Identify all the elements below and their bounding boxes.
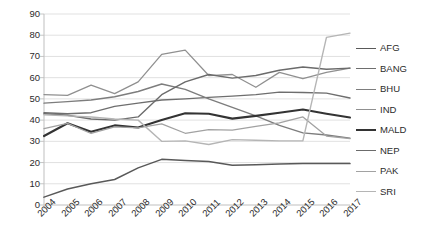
- legend-label: BHU: [380, 84, 400, 94]
- y-tick-label: 90: [2, 9, 40, 19]
- y-tick-label: 30: [2, 136, 40, 146]
- legend-line-swatch: [356, 48, 376, 49]
- legend-label: BANG: [380, 64, 407, 74]
- legend-item-pak[interactable]: PAK: [356, 161, 398, 181]
- y-tick-label: 20: [2, 158, 40, 168]
- legend-item-nep[interactable]: NEP: [356, 141, 400, 161]
- y-tick-label: 10: [2, 179, 40, 189]
- legend-item-sri[interactable]: SRI: [356, 182, 396, 202]
- y-tick-label: 0: [2, 200, 40, 210]
- legend-item-mald[interactable]: MALD: [356, 120, 406, 140]
- x-axis: 2004200520062007200820092010201120122013…: [44, 205, 350, 243]
- y-tick-label: 70: [2, 51, 40, 61]
- legend-line-swatch: [356, 150, 376, 151]
- legend-line-swatch: [356, 68, 376, 69]
- legend-line-swatch: [356, 109, 376, 110]
- legend-item-bhu[interactable]: BHU: [356, 79, 400, 99]
- legend-label: MALD: [380, 125, 406, 135]
- legend-label: AFG: [380, 43, 400, 53]
- y-tick-label: 40: [2, 115, 40, 125]
- legend-label: IND: [380, 105, 396, 115]
- legend-label: NEP: [380, 146, 400, 156]
- legend-line-swatch: [356, 129, 376, 131]
- y-tick-label: 60: [2, 73, 40, 83]
- legend-item-afg[interactable]: AFG: [356, 38, 400, 58]
- legend-line-swatch: [356, 191, 376, 192]
- y-tick-label: 80: [2, 30, 40, 40]
- legend-line-swatch: [356, 89, 376, 90]
- legend-line-swatch: [356, 171, 376, 172]
- legend-item-bang[interactable]: BANG: [356, 59, 407, 79]
- plot-svg: [44, 14, 350, 205]
- line-chart: 0102030405060708090 20042005200620072008…: [0, 0, 426, 243]
- legend-item-ind[interactable]: IND: [356, 100, 396, 120]
- plot-area: [44, 14, 350, 205]
- chart-legend: AFGBANGBHUINDMALDNEPPAKSRI: [356, 38, 426, 208]
- y-tick-label: 50: [2, 94, 40, 104]
- series-line-sri: [44, 33, 350, 144]
- series-line-afg: [44, 159, 350, 197]
- y-axis: 0102030405060708090: [0, 0, 40, 243]
- legend-label: PAK: [380, 166, 398, 176]
- series-line-ind: [44, 50, 350, 95]
- legend-label: SRI: [380, 187, 396, 197]
